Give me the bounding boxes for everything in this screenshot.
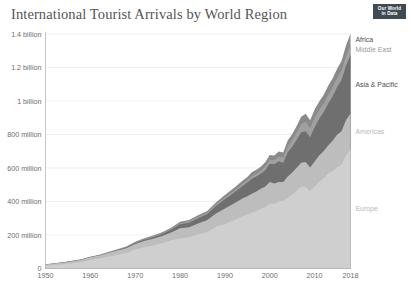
area-series-group	[46, 34, 351, 269]
series-legend-labels: EuropeAmericasAsia & PacificMiddle EastA…	[356, 36, 399, 214]
y-tick-label: 1 billion	[17, 97, 41, 106]
x-tick-label: 2000	[262, 271, 278, 280]
series-label-africa: Africa	[356, 36, 374, 43]
series-label-middle-east: Middle East	[356, 46, 392, 53]
stacked-area-chart: 0200 million400 million600 million800 mi…	[0, 0, 411, 293]
x-tick-label: 1990	[217, 271, 233, 280]
x-tick-label: 1950	[38, 271, 54, 280]
y-tick-label: 400 million	[7, 197, 41, 206]
x-tick-label: 1970	[127, 271, 143, 280]
y-tick-label: 800 million	[7, 130, 41, 139]
x-tick-label: 2018	[343, 271, 359, 280]
x-tick-label: 2010	[307, 271, 323, 280]
series-label-asia-pacific: Asia & Pacific	[356, 81, 399, 88]
chart-page: International Tourist Arrivals by World …	[0, 0, 411, 293]
x-tick-label: 1980	[172, 271, 188, 280]
y-tick-label: 1.2 billion	[11, 63, 41, 72]
y-tick-label: 1.4 billion	[11, 30, 41, 39]
y-tick-label: 200 million	[7, 231, 41, 240]
y-axis-tick-labels: 0200 million400 million600 million800 mi…	[7, 30, 41, 274]
x-tick-label: 1960	[82, 271, 98, 280]
x-axis-tick-labels: 19501960197019801990200020102018	[38, 271, 359, 280]
series-label-europe: Europe	[356, 205, 378, 213]
y-tick-label: 600 million	[7, 164, 41, 173]
series-label-americas: Americas	[356, 128, 385, 135]
